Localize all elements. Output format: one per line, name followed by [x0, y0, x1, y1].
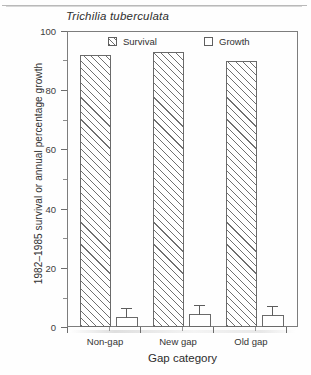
y-tick-label-20: 20: [26, 263, 56, 274]
y-tick-label-0: 0: [26, 322, 56, 333]
chart-legend: Survival Growth: [67, 36, 298, 52]
page-rule-secondary: [6, 6, 302, 7]
bar-growth-new-gap: [189, 314, 211, 327]
bar-growth-non-gap: [116, 317, 138, 327]
error-cap-growth-old-gap: [267, 306, 278, 307]
x-minor-tick-3: [255, 327, 256, 331]
legend-label-survival: Survival: [123, 36, 157, 47]
bar-survival-old-gap: [226, 61, 257, 327]
x-tick-right: [286, 327, 287, 333]
hatched-square-icon: [108, 37, 117, 46]
x-minor-tick-1: [109, 327, 110, 331]
y-tick-label-100: 100: [26, 26, 56, 37]
error-cap-growth-non-gap: [121, 308, 132, 309]
bar-survival-non-gap: [80, 55, 111, 327]
legend-item-growth: Growth: [204, 36, 250, 47]
x-category-label-new-gap: New gap: [148, 336, 208, 347]
chart-title: Trichilia tuberculata: [66, 10, 296, 22]
legend-label-growth: Growth: [219, 36, 250, 47]
y-tick-label-80: 80: [26, 85, 56, 96]
y-tick-label-60: 60: [26, 144, 56, 155]
y-tick-label-40: 40: [26, 204, 56, 215]
error-bar-growth-old-gap: [272, 306, 273, 316]
open-square-icon: [204, 37, 213, 46]
figure-panel: Trichilia tuberculata 1982–1985 survival…: [0, 0, 311, 375]
bar-survival-new-gap: [153, 52, 184, 327]
x-axis-title: Gap category: [67, 352, 298, 364]
x-tick-left-edge: [67, 327, 68, 333]
x-tick-group-2-3: [213, 327, 214, 333]
x-minor-tick-2: [182, 327, 183, 331]
error-bar-growth-non-gap: [126, 308, 127, 318]
x-category-label-non-gap: Non-gap: [75, 336, 135, 347]
x-category-label-old-gap: Old gap: [221, 336, 281, 347]
error-cap-growth-new-gap: [194, 305, 205, 306]
x-tick-group-1-2: [140, 327, 141, 333]
error-bar-growth-new-gap: [199, 305, 200, 315]
legend-item-survival: Survival: [108, 36, 157, 47]
bar-growth-old-gap: [262, 315, 284, 327]
